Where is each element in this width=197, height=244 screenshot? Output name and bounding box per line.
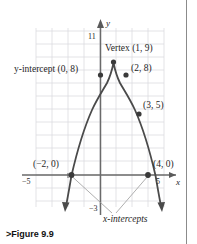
x-intercepts-annotation: x-intercepts [103, 215, 148, 225]
y-intercept-label: y-intercept (0, 8) [14, 65, 78, 75]
figure-9-9: Vertex (1, 9) y-intercept (0, 8) (2, 8) … [0, 0, 197, 244]
point-y-intercept [98, 72, 103, 77]
point-2-8 [123, 72, 128, 77]
parabola-curve [66, 63, 161, 206]
vertex-label: Vertex (1, 9) [105, 44, 153, 54]
x-axis-arrow [169, 172, 176, 178]
point-3-5 [136, 111, 141, 116]
point-neg2-0 [69, 172, 75, 178]
x-axis-label: x [176, 178, 180, 187]
y-axis-arrow [97, 19, 104, 28]
page-margin-rule [186, 0, 187, 244]
point-4-0 [145, 172, 151, 178]
x-tick-5-label: 5 [156, 178, 160, 186]
figure-caption: >Figure 9.9 [6, 229, 54, 239]
point-vertex [111, 59, 116, 64]
parabola-plot [0, 0, 197, 244]
point-neg2-0-label: (−2, 0) [33, 160, 59, 170]
x-tick-neg5-label: −5 [22, 178, 31, 186]
point-4-0-label: (4, 0) [153, 160, 174, 170]
y-tick-neg3-label: −3 [89, 205, 98, 213]
point-3-5-label: (3, 5) [143, 101, 164, 111]
x-intercept-leader-lines [72, 176, 149, 213]
y-axis-label: y [106, 19, 110, 28]
point-2-8-label: (2, 8) [131, 64, 152, 74]
y-tick-11-label: 11 [88, 33, 96, 41]
